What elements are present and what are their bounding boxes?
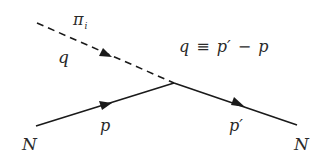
nucleon-out-arrow-icon: [231, 97, 245, 107]
relation-p-prime: p′: [217, 37, 231, 56]
feynman-diagram: πi q q ≡ p′ − p N p p′ N: [0, 0, 324, 163]
pion-label: πi: [72, 10, 88, 31]
momentum-relation: q ≡ p′ − p: [179, 37, 269, 56]
pion-momentum-label: q: [58, 47, 69, 67]
relation-equiv: ≡: [196, 37, 209, 56]
relation-p: p: [258, 37, 268, 56]
relation-lhs: q: [179, 37, 189, 56]
nucleon-out-momentum-label: p′: [229, 116, 243, 135]
pion-symbol: π: [72, 10, 84, 29]
pion-arrow-icon: [99, 48, 112, 57]
nucleon-in-momentum-label: p: [100, 116, 110, 135]
relation-minus: −: [238, 37, 251, 56]
nucleon-in-label: N: [21, 134, 38, 154]
nucleon-out-label: N: [293, 134, 310, 154]
pion-subscript: i: [85, 21, 88, 31]
